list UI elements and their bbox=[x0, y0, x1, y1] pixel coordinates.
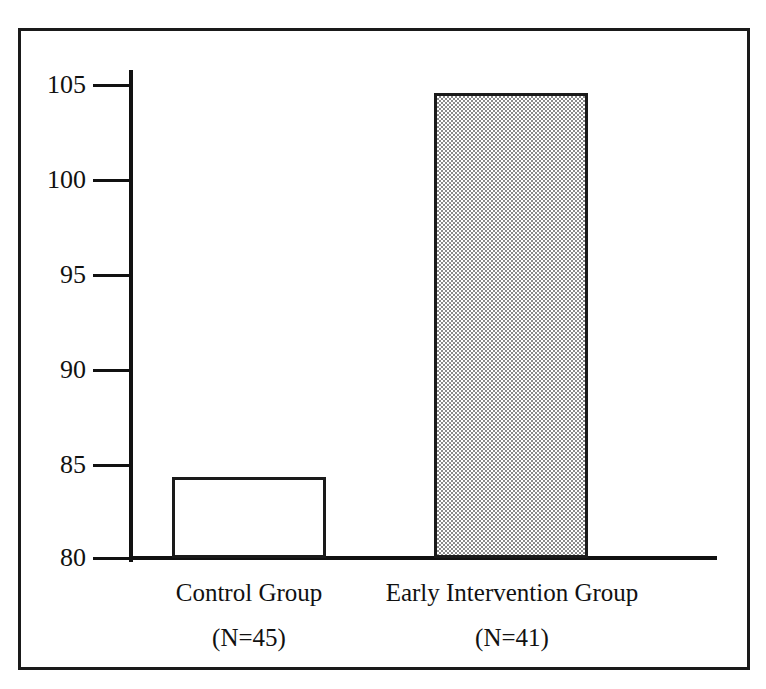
bar-early-intervention-group bbox=[434, 93, 588, 558]
category-label-control-group: Control Group bbox=[139, 578, 359, 608]
y-tick-label-105: 105 bbox=[30, 72, 86, 98]
figure-page: 105 100 95 90 85 80 Control Group (N=45)… bbox=[0, 0, 766, 689]
y-tick-mark-90 bbox=[93, 369, 133, 372]
figure-border bbox=[18, 28, 750, 670]
y-axis-line bbox=[129, 70, 133, 562]
y-tick-mark-105 bbox=[93, 84, 133, 87]
y-tick-label-90: 90 bbox=[30, 357, 86, 383]
y-tick-label-85: 85 bbox=[30, 452, 86, 478]
y-tick-mark-80 bbox=[93, 557, 133, 560]
y-tick-label-80: 80 bbox=[30, 545, 86, 571]
y-tick-label-100: 100 bbox=[30, 167, 86, 193]
category-sublabel-control-group: (N=45) bbox=[139, 623, 359, 653]
y-tick-mark-85 bbox=[93, 464, 133, 467]
y-tick-label-95: 95 bbox=[30, 262, 86, 288]
category-label-early-intervention-group: Early Intervention Group bbox=[381, 578, 643, 608]
y-tick-mark-100 bbox=[93, 179, 133, 182]
bar-control-group bbox=[172, 477, 326, 558]
category-sublabel-early-intervention-group: (N=41) bbox=[381, 623, 643, 653]
y-tick-mark-95 bbox=[93, 274, 133, 277]
